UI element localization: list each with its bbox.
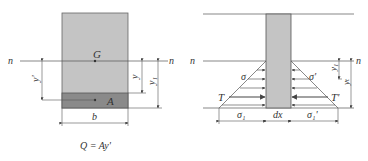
formula: Q = Ay' <box>80 140 112 151</box>
shear-flow-diagram: n n G A y' y y₁ b Q = Ay' n n <box>0 0 368 161</box>
neutral-axis-label-right: n <box>169 55 174 66</box>
sigma1-left-label: σ₁ <box>237 109 245 120</box>
centroid-label: G <box>93 48 101 60</box>
width-label: b <box>92 111 97 122</box>
sigma1-right-label: σ₁' <box>307 109 318 120</box>
left-figure: n n G A y' y y₁ b Q = Ay' <box>8 13 174 151</box>
y-prime-label: y' <box>30 75 41 83</box>
sigma-right-label: σ' <box>309 71 317 82</box>
force-right-label: T' <box>331 91 340 103</box>
beam-element <box>266 14 291 108</box>
y1-label: y₁ <box>328 64 338 72</box>
force-left-label: T <box>218 91 225 103</box>
yt-label: yₜ <box>341 78 351 86</box>
dx-label: dx <box>273 109 283 120</box>
neutral-axis-label-left: n <box>190 55 195 66</box>
y1-label: y₁ <box>146 77 157 86</box>
right-figure: n n σ σ' T T' σ₁ dx σ₁' <box>190 14 361 124</box>
area-label: A <box>106 95 114 107</box>
neutral-axis-label-right: n <box>356 55 361 66</box>
centroid-point <box>94 60 96 62</box>
sigma-left-label: σ <box>241 71 247 82</box>
neutral-axis-label-left: n <box>8 55 13 66</box>
y-label: y <box>129 74 140 80</box>
